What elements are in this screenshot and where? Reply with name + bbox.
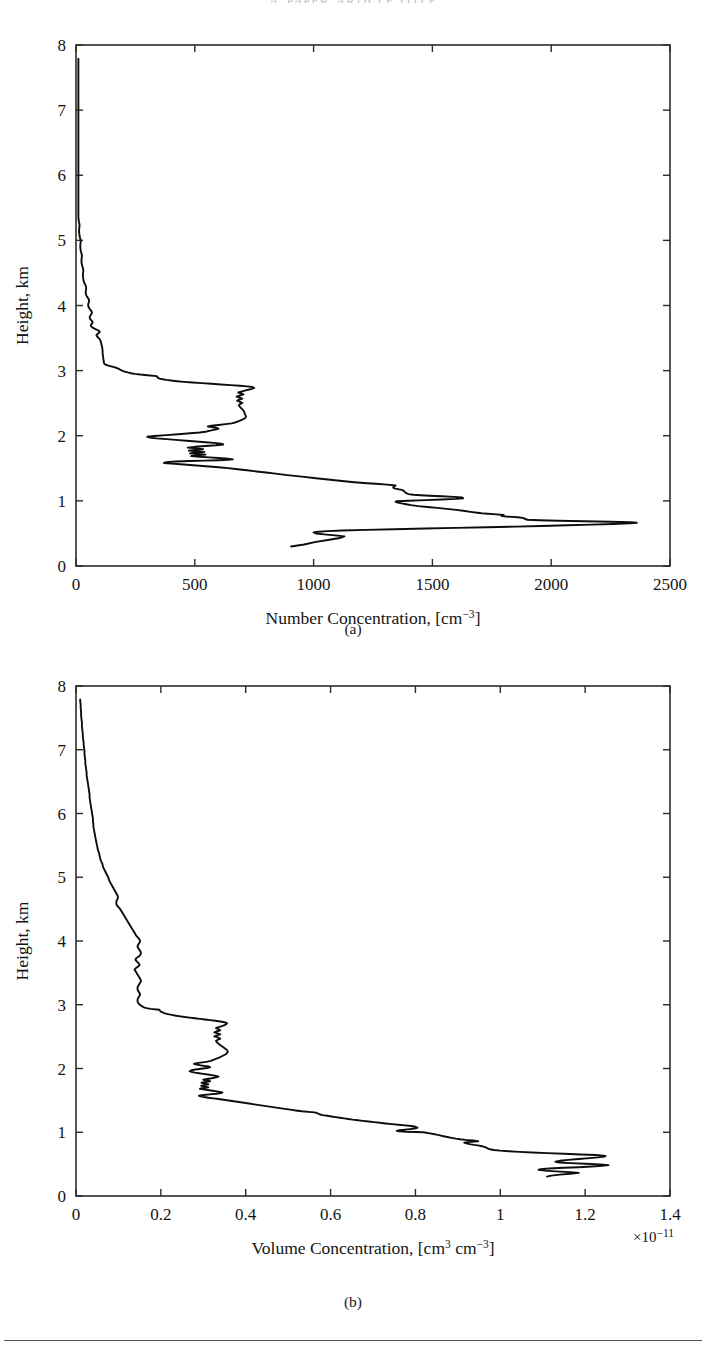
y-tick-label: 4 [58, 297, 67, 316]
x-axis-title: Volume Concentration, [cm3 cm−3] [251, 1238, 494, 1258]
subfigure-label-b: (b) [0, 1293, 706, 1311]
data-curve-0 [80, 699, 608, 1176]
subfigure-label-a: (a) [0, 620, 706, 638]
x-tick-label: 0.6 [320, 1205, 341, 1224]
x-tick-label: 1000 [297, 575, 331, 594]
y-tick-label: 4 [58, 932, 67, 951]
y-tick-label: 0 [58, 557, 67, 576]
y-tick-label: 3 [58, 362, 67, 381]
y-tick-label: 6 [58, 166, 67, 185]
y-tick-label: 6 [58, 805, 67, 824]
y-tick-label: 5 [58, 868, 67, 887]
y-tick-label: 8 [58, 677, 67, 696]
x-tick-label: 0 [72, 1205, 81, 1224]
y-tick-label: 1 [58, 1123, 67, 1142]
y-tick-label: 1 [58, 492, 67, 511]
y-axis-title: Height, km [12, 901, 32, 980]
x-tick-label: 2500 [653, 575, 687, 594]
y-tick-label: 2 [58, 1060, 67, 1079]
x-tick-label: 1.4 [659, 1205, 681, 1224]
y-tick-label: 8 [58, 36, 67, 55]
number-concentration-chart: 05001000150020002500012345678Height, kmN… [0, 0, 706, 640]
y-tick-label: 7 [58, 101, 67, 120]
data-curve-0 [78, 59, 636, 547]
x-tick-label: 1 [496, 1205, 505, 1224]
x-tick-label: 1500 [415, 575, 449, 594]
x-tick-label: 0.4 [235, 1205, 257, 1224]
volume-concentration-chart: 00.20.40.60.811.21.4012345678Height, kmV… [0, 638, 706, 1298]
chart-panel-b: 00.20.40.60.811.21.4012345678Height, kmV… [0, 638, 706, 1338]
x-tick-label: 500 [182, 575, 208, 594]
chart-panel-a: 05001000150020002500012345678Height, kmN… [0, 0, 706, 690]
plot-frame [76, 45, 670, 566]
footer-rule [4, 1340, 702, 1341]
y-tick-label: 3 [58, 996, 67, 1015]
y-tick-label: 5 [58, 231, 67, 250]
x-tick-label: 0 [72, 575, 81, 594]
x-tick-label: 2000 [534, 575, 568, 594]
figure-page: A. PAPER. ARTICLE TITLE 0500100015002000… [0, 0, 706, 1357]
y-tick-label: 2 [58, 427, 67, 446]
y-tick-label: 0 [58, 1187, 67, 1206]
x-axis-exponent: ×10−11 [633, 1227, 674, 1245]
y-tick-label: 7 [58, 741, 67, 760]
x-tick-label: 1.2 [575, 1205, 596, 1224]
x-tick-label: 0.8 [405, 1205, 426, 1224]
y-axis-title: Height, km [12, 266, 32, 345]
plot-frame [76, 686, 670, 1196]
x-tick-label: 0.2 [150, 1205, 171, 1224]
